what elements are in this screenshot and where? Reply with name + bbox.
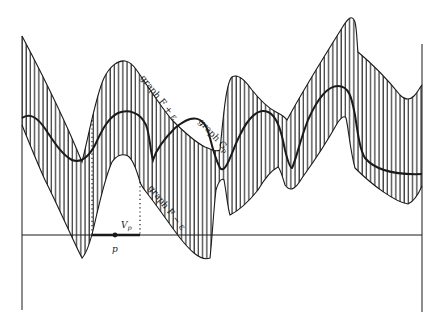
diagram-figure: graph F + ε graph F − ε graph Gp Vp p	[0, 0, 442, 332]
label-p: p	[112, 244, 118, 254]
label-v-p: Vp	[121, 220, 133, 232]
point-p	[113, 233, 118, 238]
